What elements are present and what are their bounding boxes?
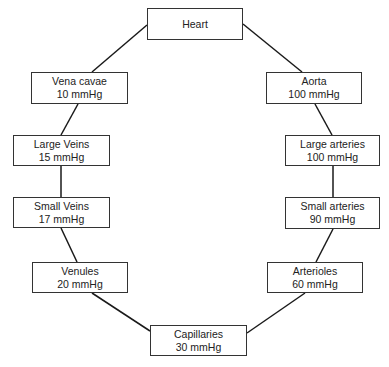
node-label: Vena cavae bbox=[52, 75, 107, 88]
node-heart: Heart bbox=[147, 8, 243, 40]
edge-vena-cavae-large-veins bbox=[61, 104, 78, 135]
node-pressure: 100 mmHg bbox=[307, 151, 358, 164]
node-large-veins: Large Veins 15 mmHg bbox=[13, 135, 110, 166]
edge-small-arteries-arterioles bbox=[316, 229, 333, 262]
node-label: Large Veins bbox=[34, 138, 89, 151]
node-aorta: Aorta 100 mmHg bbox=[266, 72, 362, 104]
node-pressure: 20 mmHg bbox=[57, 278, 103, 291]
node-arterioles: Arterioles 60 mmHg bbox=[267, 262, 363, 293]
node-label: Heart bbox=[182, 18, 208, 31]
node-capillaries: Capillaries 30 mmHg bbox=[150, 325, 247, 356]
edge-heart-aorta bbox=[243, 24, 302, 72]
node-pressure: 100 mmHg bbox=[288, 88, 339, 101]
node-pressure: 60 mmHg bbox=[292, 278, 338, 291]
node-pressure: 10 mmHg bbox=[57, 88, 103, 101]
circulation-diagram: Heart Vena cavae 10 mmHg Aorta 100 mmHg … bbox=[0, 0, 389, 367]
node-label: Arterioles bbox=[293, 265, 337, 278]
node-small-veins: Small Veins 17 mmHg bbox=[13, 197, 110, 228]
node-venules: Venules 20 mmHg bbox=[32, 262, 128, 293]
node-label: Capillaries bbox=[174, 328, 223, 341]
node-large-arteries: Large arteries 100 mmHg bbox=[285, 135, 380, 166]
edge-venules-capillaries bbox=[92, 293, 150, 331]
node-label: Aorta bbox=[301, 75, 326, 88]
edge-aorta-large-arteries bbox=[315, 104, 332, 135]
node-label: Small arteries bbox=[300, 200, 364, 213]
node-label: Small Veins bbox=[34, 200, 89, 213]
node-vena-cavae: Vena cavae 10 mmHg bbox=[31, 72, 128, 104]
node-pressure: 17 mmHg bbox=[39, 213, 85, 226]
node-small-arteries: Small arteries 90 mmHg bbox=[285, 197, 380, 229]
edge-arterioles-capillaries bbox=[247, 293, 305, 333]
edge-heart-vena-cavae bbox=[92, 25, 147, 72]
edge-small-veins-venules bbox=[61, 228, 77, 262]
node-pressure: 15 mmHg bbox=[39, 151, 85, 164]
node-pressure: 90 mmHg bbox=[310, 213, 356, 226]
node-pressure: 30 mmHg bbox=[176, 341, 222, 354]
connector-lines bbox=[0, 0, 389, 367]
node-label: Venules bbox=[61, 265, 98, 278]
node-label: Large arteries bbox=[300, 138, 365, 151]
